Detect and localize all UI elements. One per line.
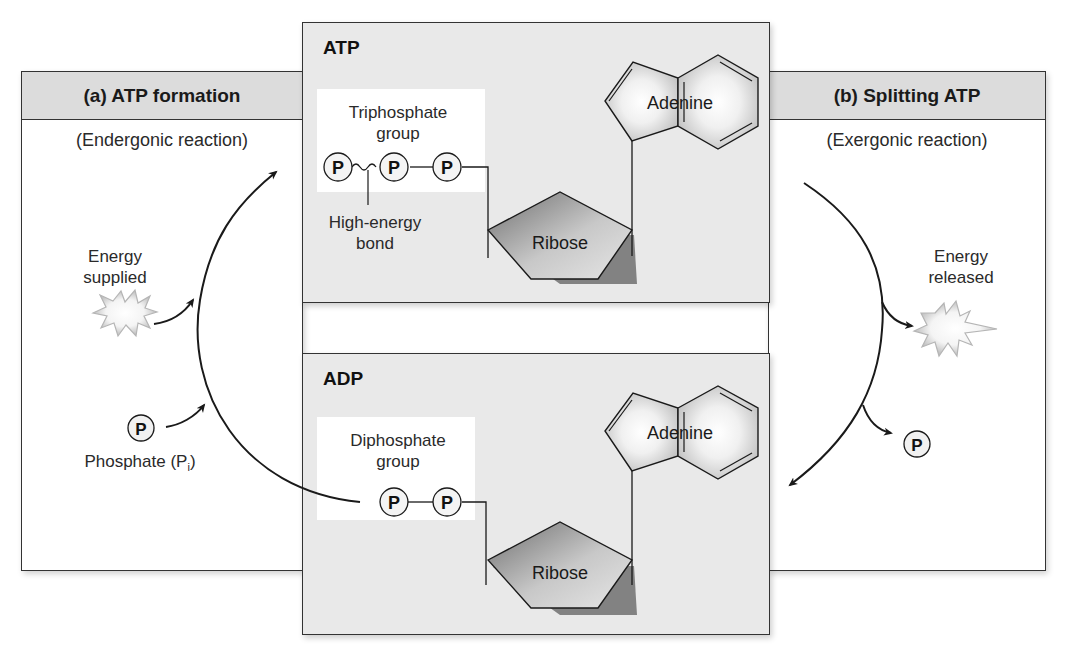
adp-phosphate-2: P xyxy=(433,488,461,516)
svg-text:P: P xyxy=(388,158,400,178)
svg-text:Adenine: Adenine xyxy=(647,93,713,113)
svg-text:P: P xyxy=(441,158,453,178)
svg-text:Adenine: Adenine xyxy=(647,423,713,443)
energy-released-arrow xyxy=(882,302,912,326)
energy-supplied-arrow xyxy=(154,300,193,324)
energy-supplied-burst-icon xyxy=(93,290,157,336)
formation-cycle-arrow xyxy=(198,172,360,502)
diagram-graphics: P P P Ribose Adenine P xyxy=(0,0,1068,652)
atp-phosphate-2: P xyxy=(380,153,408,181)
phosphate-released-arrow xyxy=(863,405,891,433)
atp-ribose: Ribose xyxy=(488,192,637,284)
svg-text:P: P xyxy=(135,420,146,439)
svg-text:P: P xyxy=(911,436,922,455)
atp-phosphate-chain: P P P xyxy=(324,153,488,258)
adp-ribose: Ribose xyxy=(488,522,637,615)
phosphate-input-arrow xyxy=(166,405,204,427)
phosphate-released-icon: P xyxy=(904,431,930,457)
atp-phosphate-1: P xyxy=(324,153,352,181)
svg-text:Ribose: Ribose xyxy=(532,563,588,583)
svg-text:Ribose: Ribose xyxy=(532,233,588,253)
atp-phosphate-3: P xyxy=(433,153,461,181)
svg-text:P: P xyxy=(388,493,400,513)
adp-phosphate-chain: P P xyxy=(380,488,486,585)
svg-text:P: P xyxy=(441,493,453,513)
adp-adenine: Adenine xyxy=(605,386,758,479)
adp-phosphate-1: P xyxy=(380,488,408,516)
phosphate-input-icon: P xyxy=(128,415,154,441)
splitting-cycle-arrow xyxy=(790,183,883,485)
svg-text:P: P xyxy=(332,158,344,178)
atp-adenine: Adenine xyxy=(605,55,758,149)
energy-released-burst-icon xyxy=(914,301,997,356)
